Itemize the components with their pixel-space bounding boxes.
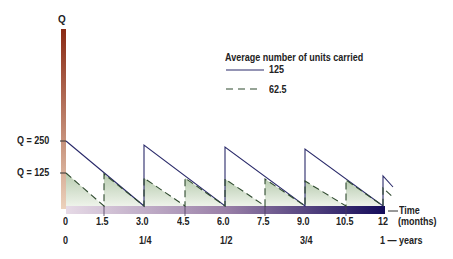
y-axis-label: Q xyxy=(58,13,66,25)
x-tick-12: 12 xyxy=(378,216,388,227)
legend-dashed-label: 62.5 xyxy=(269,84,287,95)
x-tick-1-5: 1.5 xyxy=(96,216,109,227)
year-tick-three-quarter: 3/4 xyxy=(300,235,313,246)
y-axis-bar xyxy=(61,29,66,209)
x-axis-title: Time xyxy=(399,205,420,216)
x-axis-units: (months) xyxy=(398,216,437,227)
y-tick-250: Q = 250 xyxy=(17,135,49,146)
legend-title: Average number of units carried xyxy=(225,52,363,63)
x-tick-7-5: 7.5 xyxy=(257,216,270,227)
x-axis-bar xyxy=(66,206,385,214)
x-tick-10-5: 10.5 xyxy=(336,216,354,227)
legend-solid-label: 125 xyxy=(269,64,284,75)
year-tick-quarter: 1/4 xyxy=(139,235,152,246)
year-tick-half: 1/2 xyxy=(220,235,233,246)
x-tick-4-5: 4.5 xyxy=(177,216,190,227)
x-tick-0: 0 xyxy=(63,216,68,227)
x-tick-6-0: 6.0 xyxy=(217,216,230,227)
year-tick-0: 0 xyxy=(63,235,68,246)
y-tick-125: Q = 125 xyxy=(17,167,49,178)
year-tick-one: 1 — years xyxy=(380,235,423,246)
x-tick-3-0: 3.0 xyxy=(136,216,149,227)
x-tick-9-0: 9.0 xyxy=(297,216,310,227)
